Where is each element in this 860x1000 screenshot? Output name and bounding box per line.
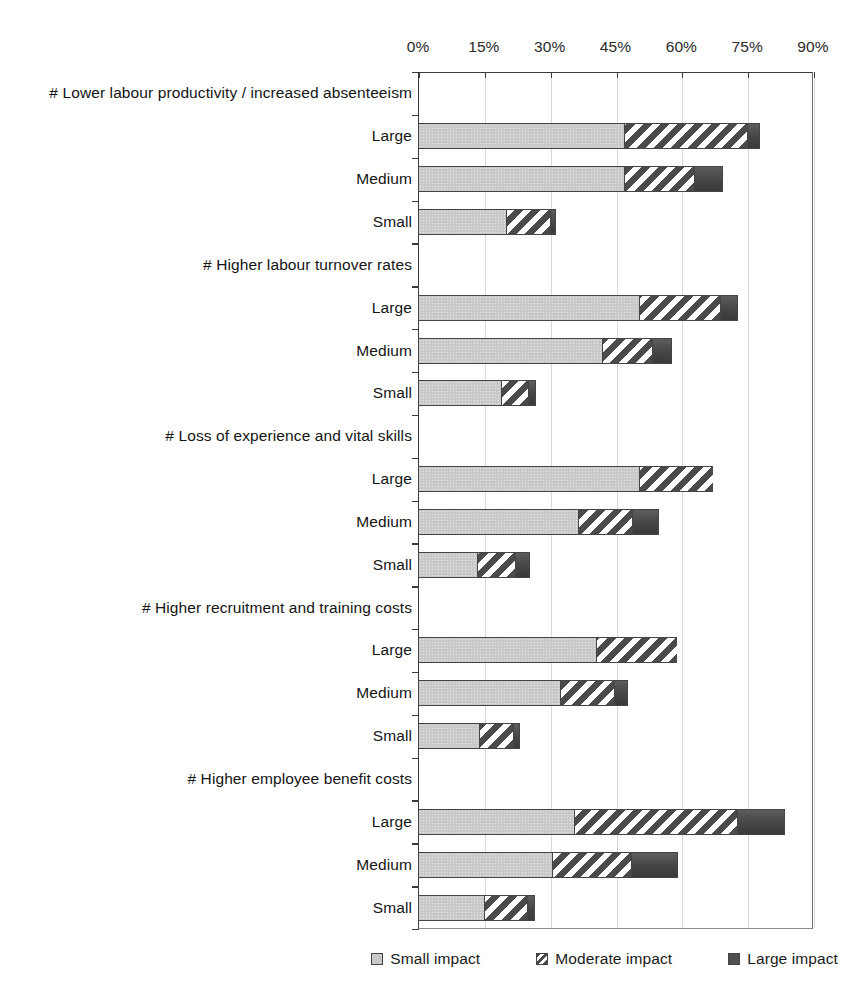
bar-row: Small [0,201,860,244]
group-header-label: # Higher employee benefit costs [187,770,412,788]
bar-segment-small[interactable] [418,123,624,149]
legend-item[interactable]: Small impact [371,950,480,968]
bar-segment-large[interactable] [747,123,760,149]
bar-row-label: Large [372,641,412,659]
bar-segment-moderate[interactable] [639,295,720,321]
bar-segment-small[interactable] [418,680,560,706]
bar-segment-small[interactable] [418,295,639,321]
bar-segment-large[interactable] [550,209,556,235]
stacked-bar[interactable] [418,680,628,706]
bar-row: Large [0,286,860,329]
x-axis-tick-label: 0% [407,38,430,56]
group-header-label: # Loss of experience and vital skills [165,427,412,445]
stacked-bar[interactable] [418,509,659,535]
bar-segment-large[interactable] [737,809,785,835]
bar-segment-moderate[interactable] [479,723,513,749]
bar-segment-moderate[interactable] [602,338,652,364]
bar-segment-moderate[interactable] [484,895,527,921]
x-axis-tick-label: 90% [797,38,828,56]
bar-row: Medium [0,329,860,372]
legend-swatch-icon [536,953,548,965]
group-header-row: # Loss of experience and vital skills [0,415,860,458]
bar-segment-moderate[interactable] [574,809,737,835]
y-axis-tick-mark [412,72,419,73]
bar-segment-moderate[interactable] [477,552,515,578]
bar-row-label: Large [372,127,412,145]
bar-row: Small [0,543,860,586]
stacked-bar[interactable] [418,466,713,492]
bar-segment-large[interactable] [632,509,660,535]
legend-label: Moderate impact [555,950,672,968]
chart-legend: Small impactModerate impactLarge impact [0,946,860,972]
stacked-bar[interactable] [418,723,520,749]
stacked-bar[interactable] [418,166,723,192]
bar-row: Small [0,372,860,415]
bar-segment-small[interactable] [418,809,574,835]
bar-row: Small [0,715,860,758]
bar-row-label: Medium [356,170,412,188]
bar-segment-small[interactable] [418,552,477,578]
bar-segment-large[interactable] [694,166,723,192]
bar-segment-moderate[interactable] [560,680,614,706]
bar-segment-small[interactable] [418,166,624,192]
stacked-bar[interactable] [418,809,785,835]
bar-segment-small[interactable] [418,852,552,878]
bar-segment-moderate[interactable] [506,209,550,235]
stacked-bar[interactable] [418,209,556,235]
bar-segment-large[interactable] [528,380,536,406]
bar-segment-moderate[interactable] [639,466,713,492]
bar-segment-moderate[interactable] [552,852,631,878]
bar-segment-large[interactable] [527,895,535,921]
bar-segment-small[interactable] [418,509,578,535]
stacked-bar[interactable] [418,338,672,364]
legend-swatch-icon [728,953,740,965]
bar-segment-small[interactable] [418,209,506,235]
bar-row: Small [0,886,860,929]
bar-row-label: Small [373,727,412,745]
stacked-bar[interactable] [418,852,678,878]
legend-item[interactable]: Large impact [728,950,838,968]
legend-label: Small impact [390,950,480,968]
stacked-bar[interactable] [418,637,677,663]
bar-segment-moderate[interactable] [501,380,527,406]
group-header-row: # Lower labour productivity / increased … [0,72,860,115]
stacked-bar[interactable] [418,123,760,149]
bar-row-label: Small [373,556,412,574]
bar-segment-moderate[interactable] [624,166,694,192]
bar-segment-large[interactable] [513,723,520,749]
bar-segment-small[interactable] [418,895,484,921]
bar-segment-moderate[interactable] [578,509,632,535]
bar-row-label: Large [372,813,412,831]
bar-row: Large [0,629,860,672]
legend-item[interactable]: Moderate impact [536,950,672,968]
bar-row-label: Medium [356,684,412,702]
bar-row-label: Large [372,299,412,317]
bar-segment-moderate[interactable] [624,123,747,149]
bar-row-label: Large [372,470,412,488]
bar-row-label: Small [373,213,412,231]
stacked-bar[interactable] [418,295,738,321]
bar-segment-large[interactable] [720,295,738,321]
bar-segment-moderate[interactable] [596,637,677,663]
legend-swatch-icon [371,953,383,965]
bar-row-label: Medium [356,856,412,874]
bar-segment-small[interactable] [418,380,501,406]
group-header-label: # Lower labour productivity / increased … [49,84,412,102]
y-axis-tick-mark [412,929,419,930]
bar-segment-small[interactable] [418,723,479,749]
bar-segment-large[interactable] [515,552,530,578]
stacked-bar[interactable] [418,380,536,406]
bar-segment-large[interactable] [631,852,678,878]
bar-segment-small[interactable] [418,637,596,663]
bar-row-label: Small [373,384,412,402]
bar-segment-large[interactable] [614,680,628,706]
stacked-bar[interactable] [418,895,535,921]
bar-segment-small[interactable] [418,466,639,492]
bar-row-label: Small [373,899,412,917]
stacked-bar[interactable] [418,552,530,578]
chart-rows: # Lower labour productivity / increased … [0,72,860,929]
bar-segment-small[interactable] [418,338,602,364]
x-axis-tick-label: 15% [468,38,499,56]
bar-segment-large[interactable] [652,338,672,364]
group-header-row: # Higher recruitment and training costs [0,586,860,629]
